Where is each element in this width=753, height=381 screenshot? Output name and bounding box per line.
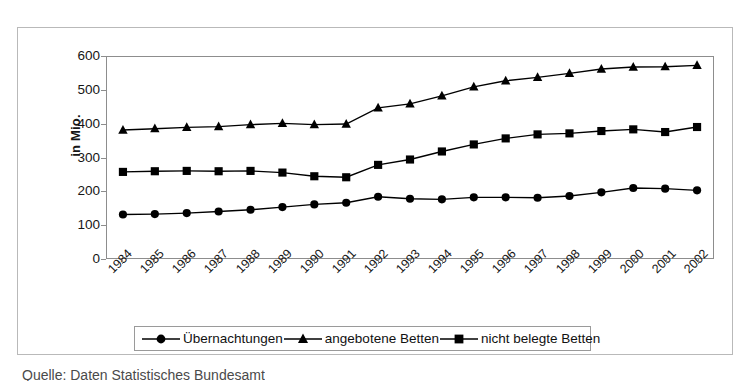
legend-label: Übernachtungen — [183, 331, 283, 346]
x-tick-label: 1988 — [234, 247, 263, 276]
x-tick-label: 1984 — [106, 247, 135, 276]
x-tick-mark — [570, 259, 571, 264]
x-tick-label: 1987 — [202, 247, 231, 276]
x-tick-label: 1986 — [170, 247, 199, 276]
x-tick-label: 1996 — [490, 247, 519, 276]
x-tick-label: 1999 — [586, 247, 615, 276]
x-tick-mark — [122, 259, 123, 264]
x-tick-mark — [442, 259, 443, 264]
legend-item: Übernachtungen — [141, 331, 283, 346]
x-tick-mark — [314, 259, 315, 264]
x-axis-tick-labels: 1984198519861987198819891990199119921993… — [0, 0, 753, 381]
x-tick-label: 1997 — [522, 247, 551, 276]
legend-item: nicht belegte Betten — [439, 331, 600, 346]
y-tick-mark — [101, 56, 106, 57]
legend-item: angebotene Betten — [283, 331, 439, 346]
x-tick-mark — [602, 259, 603, 264]
legend-label: angebotene Betten — [325, 331, 439, 346]
x-tick-label: 2000 — [618, 247, 647, 276]
x-tick-mark — [506, 259, 507, 264]
x-tick-mark — [186, 259, 187, 264]
x-tick-mark — [154, 259, 155, 264]
x-tick-mark — [378, 259, 379, 264]
x-tick-mark — [346, 259, 347, 264]
x-tick-label: 1991 — [330, 247, 359, 276]
triangle-marker-icon — [283, 332, 323, 346]
y-tick-mark — [101, 90, 106, 91]
x-tick-label: 2001 — [650, 247, 679, 276]
x-tick-label: 1992 — [362, 247, 391, 276]
chart-legend: Übernachtungenangebotene Bettennicht bel… — [134, 326, 591, 351]
x-tick-mark — [474, 259, 475, 264]
x-tick-mark — [666, 259, 667, 264]
x-tick-label: 1998 — [554, 247, 583, 276]
x-tick-label: 1994 — [426, 247, 455, 276]
x-tick-mark — [282, 259, 283, 264]
y-tick-mark — [101, 259, 106, 260]
x-tick-mark — [634, 259, 635, 264]
y-tick-mark — [101, 158, 106, 159]
x-tick-mark — [538, 259, 539, 264]
x-tick-label: 1993 — [394, 247, 423, 276]
legend-label: nicht belegte Betten — [481, 331, 600, 346]
square-marker-icon — [439, 332, 479, 346]
y-tick-mark — [101, 124, 106, 125]
x-tick-label: 2002 — [682, 247, 711, 276]
x-tick-label: 1985 — [138, 247, 167, 276]
x-tick-mark — [410, 259, 411, 264]
x-tick-mark — [698, 259, 699, 264]
y-tick-mark — [101, 191, 106, 192]
x-tick-mark — [250, 259, 251, 264]
y-tick-mark — [101, 225, 106, 226]
source-caption: Quelle: Daten Statistisches Bundesamt — [22, 367, 265, 381]
x-tick-label: 1989 — [266, 247, 295, 276]
circle-marker-icon — [141, 332, 181, 346]
x-tick-label: 1990 — [298, 247, 327, 276]
x-tick-mark — [218, 259, 219, 264]
x-tick-label: 1995 — [458, 247, 487, 276]
